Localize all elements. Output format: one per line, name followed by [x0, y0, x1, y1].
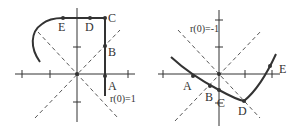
left-point-c: [103, 16, 107, 20]
right-annotation: r(0)=-1: [190, 23, 219, 35]
right-curve: [171, 54, 276, 101]
right-label-c: C: [217, 96, 225, 110]
left-label-e: E: [58, 20, 65, 34]
left-label-b: B: [108, 45, 116, 59]
left-panel: A B C D E r(0)=1: [15, 8, 136, 122]
left-annotation: r(0)=1: [110, 93, 136, 105]
right-panel: A B C D E r(0)=-1: [158, 10, 286, 126]
right-point-a: [191, 74, 195, 78]
right-label-a: A: [183, 79, 192, 93]
diagram-canvas: A B C D E r(0)=1 A B C D E r(0)=-1: [0, 0, 297, 134]
right-point-c: [217, 88, 221, 92]
left-label-d: D: [85, 20, 94, 34]
left-point-b: [103, 44, 107, 48]
left-label-c: C: [108, 11, 116, 25]
right-point-b: [208, 84, 212, 88]
right-label-e: E: [279, 62, 286, 76]
right-point-e: [268, 64, 272, 68]
right-point-d: [242, 99, 246, 103]
right-label-b: B: [205, 90, 213, 104]
left-origin-point: [75, 72, 79, 76]
left-label-a: A: [108, 79, 117, 93]
right-origin-point: [217, 72, 221, 76]
left-point-a: [103, 74, 107, 78]
right-label-d: D: [238, 104, 247, 118]
